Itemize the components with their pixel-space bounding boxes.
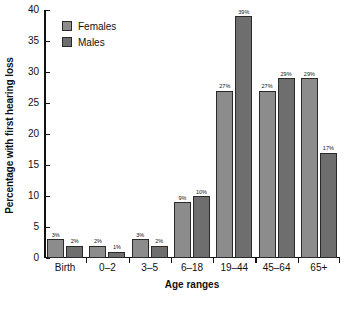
bar-value-label: 3% [47,232,64,238]
y-axis-tick-label: 40 [28,5,39,15]
y-axis-tick-label: 10 [28,191,39,201]
bar [151,246,168,258]
bar-value-label: 29% [278,71,295,77]
x-axis-tick-label: 6–18 [181,262,203,274]
bar [301,78,318,258]
bar-value-label: 2% [89,238,106,244]
y-axis-tick-mark [46,103,50,104]
bar [216,91,233,258]
y-axis-title-text: Percentage with first hearing loss [4,57,15,214]
x-axis-tick-label: 19–44 [220,262,248,274]
bar [278,78,295,258]
y-axis-tick-label: 0 [33,253,39,263]
y-axis-tick-mark [46,165,50,166]
y-axis-tick-label: 5 [33,222,39,232]
x-axis-tick-label: 65+ [310,262,327,274]
bar-value-label: 27% [216,83,233,89]
y-axis-tick-label: 25 [28,98,39,108]
x-axis-tick-label: Birth [55,262,76,274]
y-axis-tick-mark [46,10,50,11]
y-axis-tick-mark [46,227,50,228]
bar [108,252,125,258]
y-axis-tick-mark [46,41,50,42]
bar [132,239,149,258]
y-axis-tick-label: 15 [28,160,39,170]
bar-value-label: 1% [108,244,125,250]
bar [320,153,337,258]
chart-legend: FemalesMales [62,19,116,51]
bar [235,16,252,258]
legend-swatch-icon [62,37,72,47]
bar [47,239,64,258]
bar [174,202,191,258]
bar-value-label: 39% [235,9,252,15]
bar-group: 27%39% [213,10,255,258]
bar [89,246,106,258]
x-axis-tick-label: 0–2 [99,262,116,274]
legend-entry: Males [62,35,116,49]
y-axis-title: Percentage with first hearing loss [0,0,18,270]
x-axis-tick-label: 3–5 [141,262,158,274]
legend-swatch-icon [62,21,72,31]
bar [193,196,210,258]
bar [66,246,83,258]
y-axis-tick-label: 30 [28,67,39,77]
bar-value-label: 27% [259,83,276,89]
bar [259,91,276,258]
bar-value-label: 2% [151,238,168,244]
bar-value-label: 29% [301,71,318,77]
y-axis-tick-mark [46,134,50,135]
y-axis-tick-label: 35 [28,36,39,46]
bar-group: 27%29% [255,10,297,258]
bar-value-label: 2% [66,238,83,244]
bar-value-label: 9% [174,195,191,201]
y-axis-tick-mark [46,258,50,259]
y-axis-tick-mark [46,196,50,197]
legend-label: Females [78,21,116,32]
bar-value-label: 3% [132,232,149,238]
bar-group: 3%2% [129,10,171,258]
y-axis-tick-labels: 0510152025303540 [18,10,42,258]
legend-entry: Females [62,19,116,33]
bar-group: 29%17% [298,10,340,258]
bar-group: 9%10% [171,10,213,258]
y-axis-tick-label: 20 [28,129,39,139]
bar-chart: Percentage with first hearing loss 05101… [0,0,349,312]
x-axis-title: Age ranges [44,279,340,290]
bar-value-label: 17% [320,145,337,151]
bar-value-label: 10% [193,189,210,195]
y-axis-tick-mark [46,72,50,73]
x-axis-tick-labels: Birth0–23–56–1819–4445–6465+ [44,262,340,276]
legend-label: Males [78,37,105,48]
x-axis-tick-label: 45–64 [263,262,291,274]
